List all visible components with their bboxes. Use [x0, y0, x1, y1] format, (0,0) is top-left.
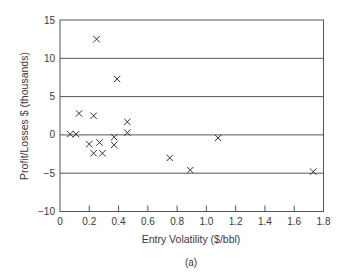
y-tick-label: 0: [49, 129, 55, 140]
x-tick-label: 0.8: [170, 216, 184, 227]
x-tick-label: 1.2: [229, 216, 243, 227]
x-marker: [310, 168, 316, 174]
x-marker: [114, 76, 120, 82]
y-tick-label: 15: [44, 15, 56, 26]
x-marker: [73, 131, 79, 137]
x-marker: [86, 141, 92, 147]
x-tick-label: 0.2: [82, 216, 96, 227]
x-tick-label: 0.6: [141, 216, 155, 227]
y-axis-title: Profit/Losses $ (thousands): [18, 52, 30, 180]
x-marker: [67, 131, 73, 137]
x-tick-label: 0: [57, 216, 63, 227]
y-tick-label: −10: [38, 206, 55, 217]
x-marker: [96, 139, 102, 145]
x-marker: [187, 167, 193, 173]
x-marker: [76, 110, 82, 116]
x-axis-title: Entry Volatility ($/bbl): [142, 233, 241, 245]
plot-frame: [60, 20, 324, 212]
data-points: [67, 36, 316, 175]
x-tick-label: 1.0: [199, 216, 213, 227]
figure-caption: (a): [185, 257, 197, 268]
x-marker: [90, 113, 96, 119]
x-marker: [99, 150, 105, 156]
x-marker: [124, 119, 130, 125]
x-axis-ticks: 00.20.40.60.81.01.21.41.61.8: [57, 206, 331, 227]
x-tick-label: 1.8: [317, 216, 331, 227]
x-tick-label: 1.4: [258, 216, 272, 227]
y-axis-ticks: −10−5051015: [38, 15, 55, 218]
y-tick-label: 5: [49, 91, 55, 102]
x-tick-label: 0.4: [112, 216, 126, 227]
y-tick-label: 10: [44, 53, 56, 64]
x-tick-label: 1.6: [287, 216, 301, 227]
scatter-chart: 00.20.40.60.81.01.21.41.61.8 −10−5051015…: [0, 0, 347, 277]
x-marker: [215, 135, 221, 141]
x-marker: [111, 142, 117, 148]
y-tick-label: −5: [44, 168, 56, 179]
x-marker: [93, 36, 99, 42]
x-marker: [167, 155, 173, 161]
x-marker: [90, 150, 96, 156]
